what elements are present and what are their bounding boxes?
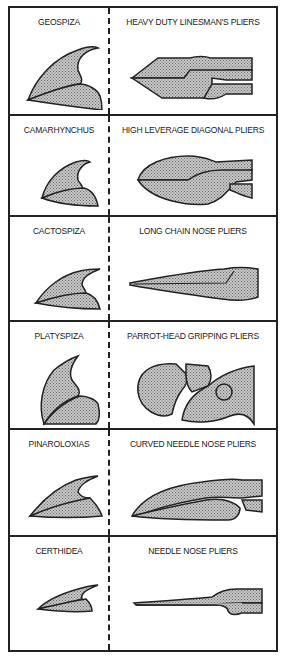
diagonal-pliers-icon [112, 146, 274, 210]
table-row: PINAROLOXIAS CURVED NEEDLE NOSE PLIERS [10, 430, 276, 537]
needle-nose-pliers-icon [112, 581, 274, 621]
table-row: CERTHIDEA NEEDLE NOSE PLIERS [10, 537, 276, 650]
camarhynchus-beak-icon [14, 146, 106, 210]
cactospiza-beak-icon [14, 253, 106, 313]
tool-label: HIGH LEVERAGE DIAGONAL PLIERS [110, 125, 276, 135]
bird-label: CERTHIDEA [10, 546, 108, 556]
tool-label: LONG CHAIN NOSE PLIERS [110, 226, 276, 236]
certhidea-beak-icon [14, 579, 106, 619]
linesman-pliers-icon [112, 48, 274, 108]
platyspiza-beak-icon [14, 350, 106, 426]
table-row: CACTOSPIZA LONG CHAIN NOSE PLIERS [10, 217, 276, 322]
parrot-head-pliers-icon [112, 354, 274, 426]
tool-label: NEEDLE NOSE PLIERS [110, 546, 276, 556]
comparison-table: GEOSPIZA HEAVY DUTY LINESMAN'S PLIERS CA… [8, 6, 278, 652]
bird-label: CACTOSPIZA [10, 226, 108, 236]
geospiza-beak-icon [14, 38, 106, 110]
bird-label: CAMARHYNCHUS [10, 125, 108, 135]
table-row: CAMARHYNCHUS HIGH LEVERAGE DIAGONAL PLIE… [10, 116, 276, 217]
tool-label: CURVED NEEDLE NOSE PLIERS [110, 439, 276, 449]
chain-nose-pliers-icon [112, 257, 274, 309]
pinaroloxias-beak-icon [14, 468, 106, 520]
tool-label: HEAVY DUTY LINESMAN'S PLIERS [110, 17, 276, 27]
curved-needle-nose-pliers-icon [112, 468, 274, 524]
bird-label: PINAROLOXIAS [10, 439, 108, 449]
bird-label: GEOSPIZA [10, 17, 108, 27]
tool-label: PARROT-HEAD GRIPPING PLIERS [110, 331, 276, 341]
bird-label: PLATYSPIZA [10, 331, 108, 341]
table-row: PLATYSPIZA PARROT-HEAD GRIPPING PLIERS [10, 322, 276, 430]
table-row: GEOSPIZA HEAVY DUTY LINESMAN'S PLIERS [10, 8, 276, 116]
